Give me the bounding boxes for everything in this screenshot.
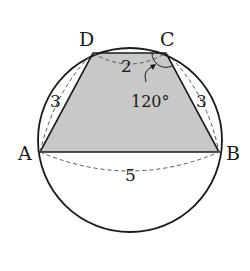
side-label-bc: 3 — [196, 91, 207, 111]
side-label-cd: 2 — [121, 56, 132, 76]
side-label-da: 3 — [50, 91, 61, 111]
angle-label-c: 120° — [131, 92, 170, 111]
vertex-label-b: B — [226, 142, 240, 164]
diagram-canvas: A B C D 5 2 3 3 120° — [0, 0, 250, 271]
vertex-label-d: D — [79, 28, 94, 50]
vertex-label-c: C — [160, 28, 175, 50]
side-label-ab: 5 — [125, 165, 136, 185]
vertex-label-a: A — [17, 142, 32, 164]
